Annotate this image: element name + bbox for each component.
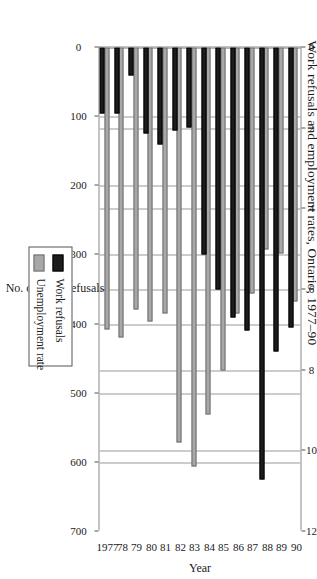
bar-group <box>170 47 185 530</box>
tick-label-secondary: 4 <box>297 201 317 213</box>
bar-work-refusals <box>244 47 249 330</box>
bar-work-refusals <box>186 47 191 127</box>
chart-figure: Work refusals and employment rates, Onta… <box>0 0 317 579</box>
tick-label-year: 1977 <box>92 540 122 552</box>
legend-label-work-refusals: Work refusals <box>52 278 64 342</box>
legend-swatch-work-refusals <box>53 254 64 271</box>
x-axis-title: Year <box>180 561 220 576</box>
bar-work-refusals <box>143 47 148 133</box>
bar-group <box>228 47 243 530</box>
bar-work-refusals <box>114 47 119 113</box>
legend-item-work-refusals: Work refusals <box>50 254 66 358</box>
bar-group <box>271 47 286 530</box>
tick-label-secondary: 8 <box>297 363 317 375</box>
bar-work-refusals <box>215 47 220 289</box>
bar-group <box>213 47 228 530</box>
bar-group <box>155 47 170 530</box>
bar-work-refusals <box>172 47 177 130</box>
legend-label-unemployment-rate: Unemployment rate <box>33 278 45 370</box>
bar-work-refusals <box>230 47 235 317</box>
bar-work-refusals <box>201 47 206 254</box>
tick-label-primary: 200 <box>64 178 92 190</box>
bar-group <box>257 47 272 530</box>
tick-label-primary: 700 <box>64 524 92 536</box>
tick-label-primary: 0 <box>64 40 92 52</box>
plot-area <box>98 46 301 530</box>
bar-group <box>199 47 214 530</box>
tick-label-secondary: 12 <box>297 524 317 536</box>
tick-mark-primary <box>94 461 98 462</box>
tick-mark-primary <box>94 46 98 47</box>
tick-label-primary: 600 <box>64 455 92 467</box>
chart-legend: Work refusals Unemployment rate <box>28 246 72 366</box>
chart-title: Work refusals and employment rates, Onta… <box>303 40 317 560</box>
tick-label-primary: 100 <box>64 109 92 121</box>
bar-group <box>184 47 199 530</box>
bar-work-refusals <box>273 47 278 351</box>
bar-work-refusals <box>99 47 104 113</box>
bar-work-refusals <box>288 47 293 327</box>
bar-unemployment-rate <box>133 47 138 309</box>
tick-mark-primary <box>94 184 98 185</box>
tick-mark-primary <box>94 253 98 254</box>
bar-work-refusals <box>157 47 162 144</box>
bar-work-refusals <box>128 47 133 75</box>
tick-label-primary: 500 <box>64 386 92 398</box>
tick-mark-primary <box>94 530 98 531</box>
legend-item-unemployment-rate: Unemployment rate <box>31 254 47 358</box>
plot-inner <box>99 47 300 530</box>
bar-group <box>141 47 156 530</box>
tick-mark-primary <box>94 323 98 324</box>
tick-label-secondary: 6 <box>297 282 317 294</box>
legend-swatch-unemployment-rate <box>34 254 45 271</box>
bar-group <box>126 47 141 530</box>
tick-mark-primary <box>94 392 98 393</box>
bar-work-refusals <box>259 47 264 479</box>
rotated-figure-frame: Work refusals and employment rates, Onta… <box>0 0 317 579</box>
tick-label-secondary: 0 <box>297 40 317 52</box>
tick-label-secondary: 10 <box>297 443 317 455</box>
tick-label-secondary: 2 <box>297 121 317 133</box>
tick-mark-primary <box>94 115 98 116</box>
bar-group <box>242 47 257 530</box>
